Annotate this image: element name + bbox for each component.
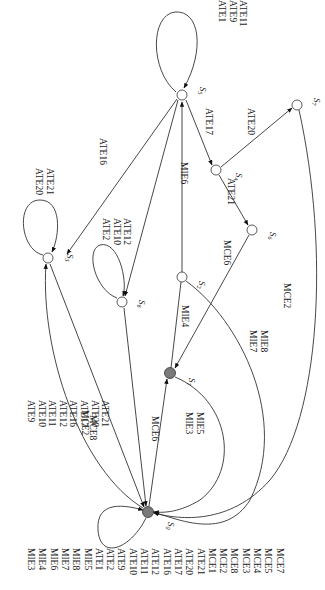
- edge-label-text: MCE4: [252, 548, 262, 574]
- edge-label-text: ATE17: [204, 108, 214, 135]
- label-s5-to-s3: ATE16: [98, 138, 108, 165]
- label-s4-to-s7: ATE20: [246, 108, 256, 135]
- edge-label-text: ATE16: [98, 138, 108, 165]
- edge-label-text: MIE3: [26, 548, 36, 570]
- edge-label-text: ATE11: [47, 400, 57, 427]
- edge-s7-to-s0: [154, 110, 317, 518]
- edge-label-text: ATE21: [226, 178, 236, 205]
- label-s7-to-s0: MCE2: [282, 283, 292, 309]
- edge-label-text: MIE5: [195, 412, 205, 434]
- edge-label-text: ATE1: [94, 548, 104, 570]
- node-label-s0: S0: [165, 522, 176, 530]
- label-s3-loop: ATE20ATE21: [34, 168, 55, 195]
- edge-label-text: ATE9: [26, 400, 36, 422]
- edge-label-text: MIE7: [248, 330, 258, 352]
- edge-label-text: MCE6: [150, 416, 160, 442]
- edge-label-text: ATE2: [101, 218, 111, 240]
- edge-label-text: ATE20: [184, 548, 194, 575]
- node-s4: [211, 165, 221, 175]
- node-label-s5: S5: [197, 87, 208, 95]
- edge-label-text: ATE17: [173, 548, 183, 575]
- edge-label-text: ATE9: [228, 0, 238, 22]
- edge-label-text: MIE6: [179, 162, 189, 184]
- node-label-s6: S6: [267, 232, 278, 240]
- edge-label-text: ATE9: [116, 548, 126, 570]
- label-s1-to-s2: MIE4: [180, 305, 190, 327]
- edge-label-text: MCE5: [263, 548, 273, 574]
- edge-label-text: ATE20: [34, 168, 44, 195]
- edge-s5-to-s8: [125, 100, 178, 296]
- label-s8-loop: ATE2ATE10ATE12: [101, 218, 132, 245]
- edge-label-text: MCE6: [222, 240, 232, 266]
- edge-label-text: ATE12: [122, 218, 132, 245]
- edge-label-text: MCE3: [241, 548, 251, 574]
- label-s2-to-s5: MIE6: [179, 162, 189, 184]
- label-s6-to-s1: MCE6: [222, 240, 232, 266]
- edge-label-text: ATE1: [217, 0, 227, 22]
- node-s6: [247, 225, 257, 235]
- node-s1: [165, 368, 176, 379]
- node-label-s3: S3: [64, 254, 75, 262]
- edge-s0-to-s1: [149, 379, 167, 506]
- edge-label-text: MIE8: [71, 548, 81, 570]
- edge-s8-to-s0: [124, 308, 146, 506]
- edge-label-text: ATE11: [238, 0, 248, 27]
- node-label-s8: S8: [136, 300, 147, 308]
- node-s2: [177, 272, 187, 282]
- edge-label-text: ATE10: [128, 548, 138, 575]
- edge-label-text: MIE4: [180, 305, 190, 327]
- label-s0-to-s3: MCE2: [80, 410, 90, 436]
- edge-label-text: MIE8: [259, 330, 269, 352]
- edge-label-text: ATE20: [246, 108, 256, 135]
- label-s2-to-s0: MIE7MIE8: [248, 330, 269, 352]
- node-label-s1: S1: [186, 378, 197, 386]
- state-diagram: S0 S1 S2 S3 S4 S5 S6 S7 S8 MIE3MIE4MIE6M…: [0, 0, 325, 590]
- node-s8: [117, 297, 127, 307]
- edge-label-text: MIE6: [49, 548, 59, 570]
- edge-label-text: MIE3: [184, 412, 194, 434]
- node-s5: [177, 90, 187, 100]
- edge-s3-loop: [23, 200, 57, 255]
- edge-label-text: ATE21: [196, 548, 206, 575]
- node-s3: [43, 253, 53, 263]
- node-s0: [143, 507, 154, 518]
- edge-label-text: ATE10: [37, 400, 47, 427]
- node-label-s7: S7: [311, 98, 322, 107]
- edge-label-text: MCE7: [275, 548, 285, 574]
- label-s0-to-s1: MCE6: [150, 416, 160, 442]
- edge-s6-to-s1: [175, 235, 249, 368]
- edge-label-text: ATE12: [58, 400, 68, 427]
- edge-label-text: MIE5: [83, 548, 93, 570]
- edge-label-text: MCE8: [229, 548, 239, 574]
- edge-label-text: MIE4: [37, 548, 47, 570]
- label-s0-loop: MIE3MIE4MIE6MIE7MIE8MIE5ATE1ATE2ATE9ATE1…: [26, 548, 285, 575]
- edge-s0-to-s3: [45, 264, 143, 508]
- edge-label-text: ATE21: [45, 168, 55, 195]
- edge-s3-to-s0: [50, 264, 144, 507]
- edge-s8-loop: [93, 245, 124, 298]
- edge-label-text: MCE2: [282, 283, 292, 309]
- edge-label-text: ATE16: [162, 548, 172, 575]
- edge-label-text: ATE2: [105, 548, 115, 570]
- edge-s5-loop: [156, 12, 197, 92]
- edge-label-text: MIE7: [60, 548, 70, 570]
- edge-label-text: ATE10: [112, 218, 122, 245]
- node-s7: [292, 100, 302, 110]
- edge-s1-to-s2: [171, 282, 181, 368]
- edge-s0-loop: [98, 506, 146, 548]
- edge-label-text: ATE21: [100, 400, 110, 427]
- label-s5-loop: ATE1ATE9ATE11: [217, 0, 248, 27]
- label-s1-to-s0: MIE3MIE5: [184, 412, 205, 434]
- edge-label-text: MCE1: [207, 548, 217, 574]
- label-s4-to-s6: ATE21: [226, 178, 236, 205]
- label-s5-to-s4: ATE17: [204, 108, 214, 135]
- node-label-s2: S2: [196, 281, 207, 289]
- edge-label-text: MCE2: [218, 548, 228, 574]
- edge-label-text: ATE12: [150, 548, 160, 575]
- edge-label-text: ATE11: [139, 548, 149, 575]
- edge-label-text: ATE16: [68, 400, 78, 427]
- edge-label-text: MCE2: [80, 410, 90, 436]
